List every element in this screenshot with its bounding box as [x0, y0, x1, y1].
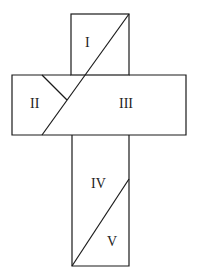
- label-region-iv: IV: [91, 176, 106, 191]
- label-region-iii: III: [119, 96, 133, 111]
- top-block: [71, 14, 129, 75]
- cross-diagram: I II III IV V: [0, 0, 200, 277]
- column-diagonal: [72, 179, 129, 266]
- label-region-ii: II: [30, 96, 40, 111]
- region-ii-segment: [42, 75, 67, 100]
- label-region-v: V: [107, 234, 117, 249]
- label-region-i: I: [85, 35, 90, 50]
- lower-column: [72, 135, 129, 266]
